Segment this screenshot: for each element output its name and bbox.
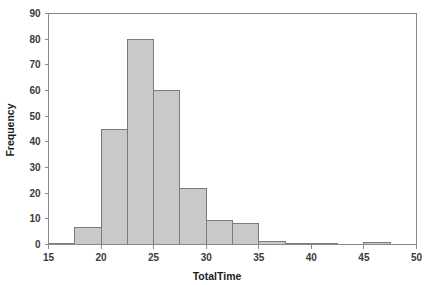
- histogram-bar: [101, 129, 127, 245]
- y-tick-label: 40: [29, 136, 41, 147]
- x-tick-label: 45: [358, 252, 370, 263]
- histogram-bar: [233, 223, 259, 244]
- y-tick-label: 70: [29, 59, 41, 70]
- y-axis-title: Frequency: [4, 103, 16, 156]
- y-tick-label: 50: [29, 111, 41, 122]
- x-tick-label: 25: [148, 252, 160, 263]
- y-tick-label: 0: [35, 239, 41, 250]
- histogram-bar: [127, 39, 153, 244]
- y-tick-label: 60: [29, 85, 41, 96]
- y-tick-label: 30: [29, 162, 41, 173]
- x-tick-label: 40: [306, 252, 318, 263]
- x-tick-label: 30: [201, 252, 213, 263]
- y-tick-label: 90: [29, 8, 41, 19]
- histogram-bar: [75, 228, 101, 245]
- x-axis-title: TotalTime: [193, 270, 242, 282]
- chart-canvas: 1520253035404550 0102030405060708090 Tot…: [0, 0, 434, 285]
- histogram-bar: [180, 188, 206, 244]
- y-tick-label: 20: [29, 188, 41, 199]
- histogram-bar: [206, 221, 232, 245]
- histogram-chart: 1520253035404550 0102030405060708090 Tot…: [0, 0, 434, 285]
- x-tick-label: 35: [253, 252, 265, 263]
- y-tick-label: 80: [29, 34, 41, 45]
- x-tick-label: 20: [96, 252, 108, 263]
- x-tick-label: 15: [43, 252, 55, 263]
- x-tick-label: 50: [411, 252, 423, 263]
- y-tick-label: 10: [29, 213, 41, 224]
- histogram-bar: [154, 91, 180, 245]
